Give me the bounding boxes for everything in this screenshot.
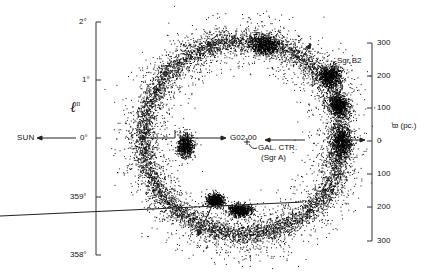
expanding-ring-diagram (0, 0, 440, 272)
left-tick-358deg: 358° (70, 251, 87, 259)
sgr-a-label: (Sgr A) (261, 154, 286, 162)
right-tick-100-bottom: 100 (377, 170, 390, 178)
left-tick-1deg: 1° (82, 76, 90, 84)
sun-label: SUN (17, 134, 35, 142)
right-tick-200-bottom: 200 (377, 203, 390, 211)
right-tick-0: 0 (377, 137, 381, 145)
left-tick-0deg: 0° (80, 134, 88, 142)
g02-00-label: G02-00 (230, 134, 257, 142)
left-axis (96, 22, 101, 255)
left-tick-2deg: 2° (79, 18, 87, 26)
sgr-b2-label: Sgr B2 (337, 57, 361, 65)
right-tick-300-top: 300 (377, 39, 390, 47)
sun-arrow (37, 136, 76, 140)
right-tick-100-top: 100 (377, 104, 390, 112)
right-tick-300-bottom: 300 (377, 237, 390, 245)
right-tick-200-top: 200 (377, 72, 390, 80)
left-tick-359deg: 359° (70, 193, 87, 201)
longitude-axis-label: ℓII (70, 100, 80, 111)
gal-center-label: GAL. CTR. (258, 144, 297, 152)
right-axis (367, 43, 372, 241)
distance-axis-label: ϖ (pc.) (392, 122, 416, 130)
